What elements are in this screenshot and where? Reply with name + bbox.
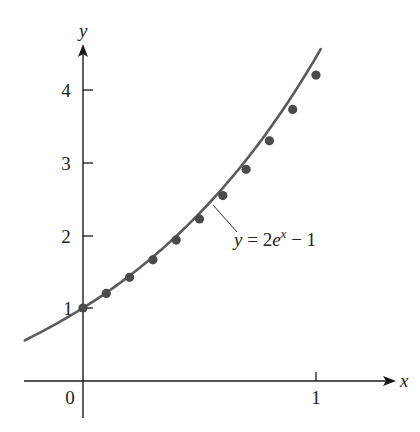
x-tick-label-1: 1	[311, 387, 321, 408]
data-point	[148, 255, 157, 264]
y-tick-label-3: 3	[61, 153, 71, 174]
origin-label: 0	[65, 387, 75, 408]
data-point	[288, 105, 297, 114]
data-point	[125, 273, 134, 282]
chart: 4 3 2 1 0 1 x y y = 2ex − 1	[0, 0, 420, 432]
data-point	[172, 236, 181, 245]
y-ticks	[83, 90, 93, 308]
data-point	[102, 289, 111, 298]
data-point	[218, 191, 227, 200]
y-tick-label-2: 2	[61, 226, 71, 247]
data-point	[195, 214, 204, 223]
y-tick-label-4: 4	[61, 80, 71, 101]
data-point	[311, 71, 320, 80]
data-point	[242, 165, 251, 174]
y-axis-label: y	[77, 20, 88, 41]
x-axis-label: x	[399, 370, 409, 391]
data-point	[265, 136, 274, 145]
data-point	[78, 303, 87, 312]
curve-label-leader	[213, 205, 237, 232]
curve-label: y = 2ex − 1	[232, 226, 316, 250]
